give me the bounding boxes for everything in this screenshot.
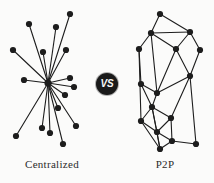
graph-edge (176, 32, 190, 49)
graph-node (55, 105, 61, 111)
graph-node (168, 115, 174, 121)
graph-node (149, 104, 155, 110)
graph-node (157, 11, 163, 17)
graph-node (21, 77, 27, 83)
graph-edge (42, 83, 48, 128)
graph-edge (151, 33, 157, 93)
graph-node (148, 30, 154, 36)
p2p-network-graph (136, 11, 203, 152)
graph-node (71, 84, 77, 90)
graph-node (10, 47, 16, 53)
centralized-network-graph (10, 11, 79, 147)
graph-node (73, 123, 79, 129)
vs-badge: VS (96, 73, 118, 95)
graph-node (138, 118, 144, 124)
graph-node (60, 141, 66, 147)
graph-node (193, 141, 199, 147)
graph-edge (160, 14, 190, 32)
graph-node (53, 24, 59, 30)
graph-node (187, 73, 193, 79)
graph-edge (172, 141, 196, 144)
graph-node (26, 21, 32, 27)
graph-edge (152, 107, 171, 118)
graph-node (136, 46, 142, 52)
graph-edge (176, 49, 190, 76)
graph-edge (171, 76, 190, 118)
graph-node (67, 75, 73, 81)
graph-node (173, 46, 179, 52)
caption-centralized: Centralized (0, 158, 104, 170)
graph-edge (190, 76, 196, 144)
figure-canvas: VS Centralized P2P (0, 0, 214, 183)
caption-p2p: P2P (120, 158, 210, 170)
graph-edge (151, 32, 190, 33)
graph-node (13, 133, 19, 139)
graph-node (157, 146, 163, 152)
vs-badge-label: VS (101, 79, 114, 89)
graph-hub-node (44, 79, 51, 86)
graph-node (187, 29, 193, 35)
graph-node (62, 92, 68, 98)
graph-edge (157, 76, 190, 93)
graph-edge (151, 14, 160, 33)
graph-node (138, 81, 144, 87)
graph-node (67, 11, 73, 17)
graph-edge (157, 49, 176, 93)
graph-node (169, 138, 175, 144)
graph-node (154, 90, 160, 96)
graph-node (39, 125, 45, 131)
graph-node (154, 129, 160, 135)
graph-node (47, 130, 53, 136)
graph-node (40, 49, 46, 55)
graph-node (63, 47, 69, 53)
graph-edge (190, 50, 200, 76)
graph-edge (151, 33, 176, 49)
graph-node (197, 47, 203, 53)
graph-edge (48, 83, 76, 126)
graph-edge (24, 80, 48, 83)
graph-edge (171, 118, 172, 141)
